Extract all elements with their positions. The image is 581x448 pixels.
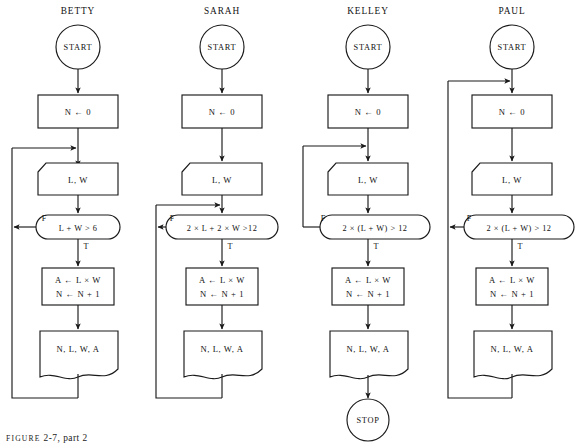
decision-paul-label: 2 × (L + W) > 12 [487,224,552,233]
decision-betty-label: L + W > 6 [59,224,98,233]
terminal-start-sarah-label: START [208,43,237,52]
output-doc-betty [40,331,118,379]
branch-label-true-kelley: T [373,242,378,251]
process-compute-kelley-line2: N ← N + 1 [346,289,390,299]
flowchart-sarah: SARAH START N ← 0 L, W 2 × L + 2 × W >12… [156,6,278,398]
process-init-paul-label: N ← 0 [499,107,525,117]
branch-label-false-kelley: F [321,214,326,223]
process-compute-paul-line1: A ← L × W [489,275,535,285]
branch-label-false-paul: F [467,214,472,223]
process-init-kelley-label: N ← 0 [355,107,381,117]
output-doc-paul [474,331,552,379]
process-compute-betty [42,268,114,305]
flowchart-betty: BETTY START N ← 0 L, W L + W > 6 F [12,6,120,398]
terminal-start-betty-label: START [64,43,93,52]
process-init-sarah-label: N ← 0 [209,107,235,117]
input-lw-sarah-label: L, W [212,175,232,185]
output-doc-sarah [184,331,262,379]
process-compute-paul-line2: N ← N + 1 [490,289,534,299]
input-lw-kelley-label: L, W [358,175,378,185]
process-compute-betty-line2: N ← N + 1 [56,289,100,299]
process-compute-sarah [186,268,258,305]
output-doc-kelley-label: N, L, W, A [346,344,389,354]
process-compute-sarah-line1: A ← L × W [199,275,245,285]
process-compute-sarah-line2: N ← N + 1 [200,289,244,299]
terminal-stop-kelley-label: STOP [356,416,379,425]
process-compute-kelley [332,268,404,305]
output-doc-kelley [330,331,408,379]
flowchart-canvas: BETTY START N ← 0 L, W L + W > 6 F [0,0,581,448]
decision-sarah-label: 2 × L + 2 × W >12 [187,224,258,233]
process-init-betty-label: N ← 0 [65,107,91,117]
figure-caption-body: 2-7, part 2 [43,433,87,443]
terminal-start-paul-label: START [498,43,527,52]
process-compute-kelley-line1: A ← L × W [345,275,391,285]
flowchart-paul: PAUL START N ← 0 L, W 2 × (L + W) > 12 F… [448,6,574,398]
figure-caption: FIGURE 2-7, part 2 [6,433,88,443]
figure-root: BETTY START N ← 0 L, W L + W > 6 F [0,0,581,448]
branch-label-true-paul: T [517,242,522,251]
terminal-start-kelley-label: START [354,43,383,52]
output-doc-betty-label: N, L, W, A [56,344,99,354]
process-compute-betty-line1: A ← L × W [55,275,101,285]
branch-label-false-betty: F [42,214,47,223]
column-title-sarah: SARAH [204,6,240,16]
input-lw-paul-label: L, W [502,175,522,185]
input-lw-betty-label: L, W [68,175,88,185]
output-doc-sarah-label: N, L, W, A [200,344,243,354]
column-title-kelley: KELLEY [347,6,389,16]
branch-label-true-sarah: T [227,242,232,251]
output-doc-paul-label: N, L, W, A [490,344,533,354]
branch-label-true-betty: T [83,242,88,251]
figure-caption-prefix: FIGURE [6,434,41,443]
flowchart-kelley: KELLEY START N ← 0 L, W 2 × (L + W) > 12… [303,6,430,441]
process-compute-paul [476,268,548,305]
decision-kelley-label: 2 × (L + W) > 12 [343,224,408,233]
column-title-betty: BETTY [61,6,95,16]
branch-label-false-sarah: F [170,214,175,223]
column-title-paul: PAUL [498,6,525,16]
